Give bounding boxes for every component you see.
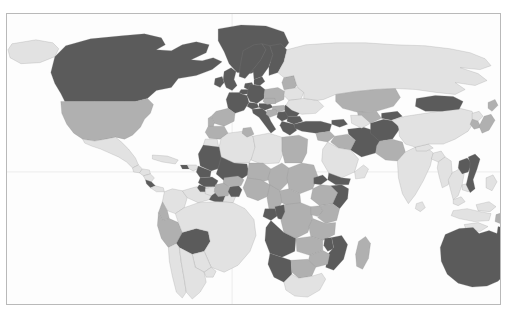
world-map-figure — [0, 0, 512, 325]
country-algeria[interactable] — [219, 131, 256, 163]
country-egypt[interactable] — [282, 135, 308, 163]
country-mongolia[interactable] — [415, 95, 463, 111]
country-libya[interactable] — [251, 133, 284, 164]
map-plot-frame — [6, 13, 501, 305]
world-map-svg — [7, 14, 500, 304]
